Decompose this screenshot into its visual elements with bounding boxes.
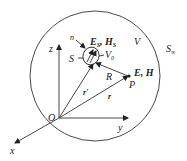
distance-label: R xyxy=(105,71,112,82)
current-arrow-2 xyxy=(90,51,96,63)
volume-label: V xyxy=(134,36,142,47)
field-point-P xyxy=(127,74,130,77)
normal-vector xyxy=(76,40,85,48)
current-arrow-1 xyxy=(87,50,93,62)
r-vector xyxy=(59,76,128,118)
v0-leader xyxy=(99,55,104,56)
x-axis-label: x xyxy=(9,145,15,156)
source-fields-label: ES, HS xyxy=(89,36,117,48)
source-volume-label: V0 xyxy=(105,49,114,61)
r-label: r xyxy=(108,92,112,101)
outer-surface-label: S∞ xyxy=(166,43,176,55)
r-prime-label: r' xyxy=(83,88,89,97)
normal-label: n xyxy=(70,33,74,42)
field-point-fields: E, H xyxy=(133,67,155,78)
vector-potential-diagram: n ES, HS V V0 S S∞ z R E, H P r' r O y x xyxy=(0,0,187,161)
origin-label: O xyxy=(48,112,55,123)
z-axis-label: z xyxy=(48,43,53,54)
y-axis-label: y xyxy=(117,122,123,133)
source-surface-label: S xyxy=(69,53,74,64)
field-point-label: P xyxy=(128,79,135,90)
